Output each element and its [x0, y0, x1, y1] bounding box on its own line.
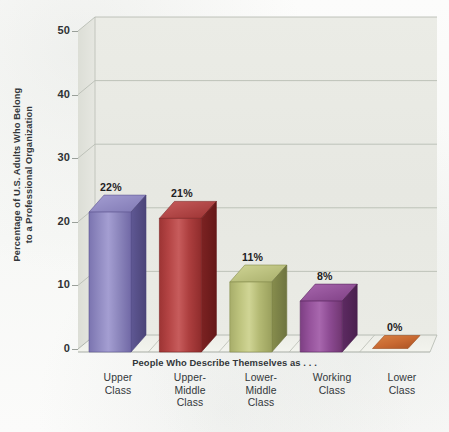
bar-upper-middle-class[interactable]	[159, 201, 216, 352]
category-label-lower-class: Lower Class	[362, 372, 442, 397]
value-label-lower-middle-class: 11%	[242, 251, 263, 263]
value-label-lower-class: 0%	[387, 321, 403, 333]
category-label-upper-class: Upper Class	[78, 372, 158, 397]
y-tick-label-40: 40	[44, 88, 70, 100]
chart-container: Percentage of U.S. Adults Who Belong to …	[0, 0, 449, 432]
category-label-lower-middle-class: Lower- Middle Class	[221, 372, 301, 410]
y-tick-dash-20	[72, 222, 78, 223]
y-axis-title: Percentage of U.S. Adults Who Belong to …	[6, 0, 42, 350]
y-tick-dash-50	[72, 31, 78, 32]
y-axis-title-line2: to a Professional Organization	[24, 106, 34, 243]
y-tick-label-0: 0	[44, 342, 70, 354]
y-tick-label-10: 10	[44, 278, 70, 290]
y-tick-label-30: 30	[44, 151, 70, 163]
category-label-working-class: Working Class	[292, 372, 372, 397]
value-label-upper-middle-class: 21%	[171, 187, 193, 199]
y-axis-title-line1: Percentage of U.S. Adults Who Belong	[12, 88, 22, 262]
y-tick-dash-10	[72, 285, 78, 286]
bar-working-class[interactable]	[300, 284, 357, 352]
y-tick-label-20: 20	[44, 215, 70, 227]
category-label-upper-middle-class: Upper- Middle Class	[150, 372, 230, 410]
y-tick-label-50: 50	[44, 24, 70, 36]
value-label-working-class: 8%	[317, 270, 333, 282]
value-label-upper-class: 22%	[100, 181, 122, 193]
y-tick-dash-40	[72, 95, 78, 96]
y-tick-dash-0	[72, 349, 78, 350]
bar-upper-class[interactable]	[89, 195, 146, 352]
x-axis-title: People Who Describe Themselves as . . .	[0, 357, 449, 368]
y-tick-dash-30	[72, 158, 78, 159]
bar-lower-middle-class[interactable]	[230, 265, 287, 352]
